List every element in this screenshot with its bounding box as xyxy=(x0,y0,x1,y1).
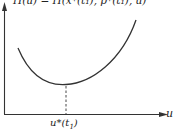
function-label: H(u) = H(x*(t₁), p*(t₁), u) xyxy=(13,0,146,6)
minimum-point-label: u*(t1) xyxy=(50,118,78,131)
hamiltonian-curve xyxy=(18,20,136,85)
hamiltonian-minimum-diagram: H(u) = H(x*(t₁), p*(t₁), u) u u*(t1) xyxy=(0,0,173,135)
x-axis-label: u xyxy=(166,108,173,119)
minimum-point-label-main: u*(t xyxy=(50,117,69,128)
y-axis-arrow-icon xyxy=(2,2,7,11)
minimum-point-label-close: ) xyxy=(74,117,78,128)
